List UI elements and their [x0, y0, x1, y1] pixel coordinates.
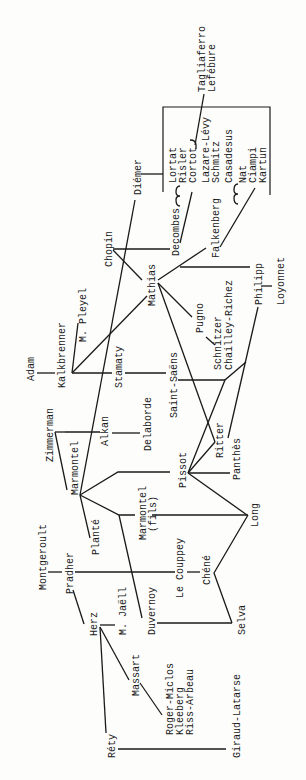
node-herz: Herz — [89, 612, 100, 636]
node-rety: Réty — [107, 734, 118, 758]
node-schnitzer: Schnitzer — [213, 316, 224, 370]
node-lefebure: Lefébure — [207, 44, 218, 92]
node-massart: Massart — [131, 654, 142, 696]
edge-pissot-ritter — [188, 442, 215, 473]
edge-pradher-herz — [73, 590, 84, 624]
node-le-couppey: Le Couppey — [175, 538, 186, 598]
node-chopin: Chopin — [104, 231, 115, 267]
node-ritter: Ritter — [215, 422, 226, 458]
node-casadesus: Casadesus — [224, 129, 235, 183]
node-giraud-latarse: Giraud-Latarse — [232, 674, 243, 758]
node-loyonnet: Loyonnet — [276, 257, 287, 305]
edge-falkenberg-nat — [220, 188, 255, 247]
names: Tagliaferro Lefébure Lortat Risler Corto… — [26, 26, 287, 758]
node-stamaty: Stamaty — [114, 346, 125, 388]
node-panthes: Panthès — [232, 438, 243, 480]
node-cortot: Cortot — [188, 147, 199, 183]
node-alkan: Alkan — [100, 416, 111, 446]
edge-zimmerman-marmontel — [55, 432, 67, 490]
node-long: Long — [250, 503, 261, 527]
node-marmontel: Marmontel — [70, 441, 81, 495]
node-decombes: Decombes — [171, 208, 182, 256]
node-mathias: Mathias — [147, 264, 158, 306]
node-pissot: Pissot — [178, 452, 189, 488]
node-saint-saens: Saint-Saëns — [169, 352, 180, 418]
node-kalkbrenner: Kalkbrenner — [57, 322, 68, 388]
connector-lines — [37, 94, 272, 749]
edge-mathias-falkenberg — [158, 248, 206, 280]
node-delaborde: Delaborde — [143, 397, 154, 451]
edge-herz-rety — [100, 627, 106, 733]
node-diemer: Diémer — [133, 159, 144, 195]
node-pradher: Pradher — [65, 552, 76, 594]
node-m-jaell: M. Jaëll — [118, 587, 129, 635]
node-plante: Planté — [91, 519, 102, 555]
node-riss-arbeau: Riss-Arbeau — [185, 669, 196, 735]
node-falkenberg: Falkenberg — [211, 198, 222, 258]
edge-marmontel-plante — [80, 495, 90, 538]
node-adam: Adam — [26, 357, 37, 381]
node-chene: Chéné — [202, 555, 213, 585]
edge-mathias-pugno — [158, 283, 192, 317]
node-philipp: Philipp — [254, 263, 265, 305]
node-m-pleyel: M. Pleyel — [78, 288, 89, 342]
node-zimmerman: Zimmerman — [45, 408, 56, 462]
node-fils: (fils) — [148, 496, 159, 532]
edge-chopin-mathias — [113, 250, 142, 280]
node-montgeroult: Montgeroult — [38, 524, 49, 590]
edge-massart-rogermiclos — [140, 683, 162, 715]
node-selva: Selva — [237, 605, 248, 635]
piano-lineage-diagram: Tagliaferro Lefébure Lortat Risler Corto… — [0, 0, 306, 780]
edge-mathias-ritter — [158, 283, 215, 442]
node-kartun: Kartun — [258, 147, 269, 183]
edge-marmontel-pissot — [80, 472, 170, 495]
node-chailley-richez: Chailley-Richez — [224, 280, 235, 370]
brace-risler-cortot — [176, 186, 180, 206]
node-duvernoy: Duvernoy — [147, 587, 158, 635]
node-schmitz: Schmitz — [211, 141, 222, 183]
node-pugno: Pugno — [195, 303, 206, 333]
edge-marmontel-fils — [80, 495, 135, 515]
brace-nat-kartun — [234, 184, 238, 204]
